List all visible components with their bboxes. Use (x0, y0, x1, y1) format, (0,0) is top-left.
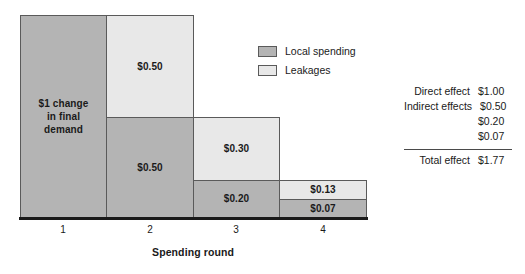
legend-swatch-leakages-icon (258, 65, 277, 76)
legend-item-local-spending: Local spending (258, 43, 356, 59)
summary-row-total-effect: Total effect $1.77 (404, 154, 514, 169)
bar-round1-label-line2: in final (39, 110, 89, 123)
bar-round3-leakages: $0.30 (193, 117, 280, 181)
chart-legend: Local spending Leakages (258, 43, 356, 81)
x-axis-tick-3: 3 (216, 224, 256, 235)
bar-round2-local-spending: $0.50 (106, 117, 194, 218)
bar-round4-local-spending: $0.07 (279, 199, 367, 218)
summary-row-indirect-effects-2: $0.20 (404, 115, 514, 130)
bar-round3-local-spending: $0.20 (193, 180, 280, 218)
spending-multiplier-chart: $1 change in final demand $0.50 $0.50 $0… (0, 0, 525, 274)
bar-round3-leakages-label: $0.30 (224, 143, 250, 155)
x-axis-line (19, 217, 368, 220)
bar-round4-leakages-label: $0.13 (310, 184, 336, 196)
bar-round3-local-spending-label: $0.20 (224, 193, 250, 205)
bar-round1-local-spending: $1 change in final demand (20, 15, 107, 218)
bar-round4-leakages: $0.13 (279, 180, 367, 200)
bar-round2-leakages: $0.50 (106, 15, 194, 118)
summary-value-direct-effect: $1.00 (478, 85, 514, 97)
summary-row-indirect-effects-3: $0.07 (404, 130, 514, 145)
summary-row-direct-effect: Direct effect $1.00 (404, 85, 514, 100)
bar-round2-leakages-label: $0.50 (137, 61, 163, 73)
bar-round1-label: $1 change in final demand (39, 97, 89, 136)
bar-round1-label-line3: demand (39, 123, 89, 136)
legend-item-leakages: Leakages (258, 62, 356, 78)
x-axis-tick-4: 4 (303, 224, 343, 235)
bar-round1-label-line1: $1 change (39, 97, 89, 110)
bar-round2-local-spending-label: $0.50 (137, 162, 163, 174)
summary-value-total-effect: $1.77 (478, 154, 514, 166)
x-axis-title: Spending round (113, 246, 273, 258)
bar-round4-local-spending-label: $0.07 (310, 203, 336, 215)
summary-label-direct-effect: Direct effect (414, 85, 470, 97)
legend-label-leakages: Leakages (285, 64, 331, 76)
summary-divider (404, 149, 512, 150)
summary-label-total-effect: Total effect (419, 154, 470, 166)
legend-label-local-spending: Local spending (285, 45, 356, 57)
summary-value-indirect-effects-1: $0.50 (480, 100, 514, 112)
summary-row-indirect-effects: Indirect effects $0.50 (404, 100, 514, 115)
summary-label-indirect-effects: Indirect effects (404, 100, 472, 112)
summary-value-indirect-effects-3: $0.07 (478, 130, 514, 142)
x-axis-tick-2: 2 (130, 224, 170, 235)
legend-swatch-local-spending-icon (258, 46, 277, 57)
effects-summary-table: Direct effect $1.00 Indirect effects $0.… (404, 85, 514, 169)
x-axis-tick-1: 1 (43, 224, 83, 235)
summary-value-indirect-effects-2: $0.20 (478, 115, 514, 127)
